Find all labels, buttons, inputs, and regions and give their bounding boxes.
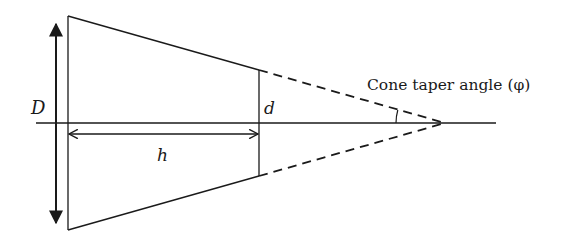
taper-angle-arc bbox=[396, 110, 398, 123]
upper-slant-edge bbox=[68, 16, 259, 70]
small-diameter-label: d bbox=[264, 98, 275, 118]
lower-slant-edge bbox=[68, 176, 259, 230]
lower-dashed-extension bbox=[259, 123, 445, 176]
taper-angle-label: Cone taper angle (φ) bbox=[367, 76, 530, 94]
large-diameter-label: D bbox=[30, 97, 46, 118]
height-label: h bbox=[157, 145, 168, 165]
cone-taper-diagram: D d h Cone taper angle (φ) bbox=[0, 0, 572, 245]
